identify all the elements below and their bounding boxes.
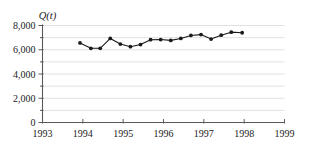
- y-tick-label: 6,000: [13, 44, 36, 55]
- x-tick-label: 1996: [154, 128, 174, 139]
- y-tick-label: 4,000: [13, 69, 36, 80]
- data-series-group: [78, 30, 244, 50]
- data-point-marker: [199, 33, 203, 37]
- y-axis-title: Q(t): [39, 10, 57, 22]
- data-point-marker: [179, 37, 183, 41]
- data-point-marker: [78, 41, 82, 45]
- chart-page: 02,0004,0006,0008,000 199319941995199619…: [0, 0, 319, 150]
- y-axis-labels-group: 02,0004,0006,0008,000: [13, 20, 36, 128]
- data-point-marker: [89, 46, 93, 50]
- data-point-marker: [229, 30, 233, 34]
- data-point-marker: [169, 39, 173, 43]
- data-point-marker: [149, 38, 153, 42]
- x-tick-label: 1999: [275, 128, 295, 139]
- x-tick-label: 1995: [113, 128, 133, 139]
- data-point-marker: [240, 31, 244, 35]
- data-point-marker: [219, 33, 223, 37]
- x-axis-labels-group: 1993199419951996199719981999: [33, 128, 295, 139]
- gridlines-group: [43, 26, 285, 111]
- x-tick-label: 1997: [194, 128, 214, 139]
- data-point-marker: [139, 43, 143, 47]
- data-point-marker: [129, 45, 133, 49]
- x-tick-label: 1994: [73, 128, 93, 139]
- data-point-marker: [209, 37, 213, 41]
- y-tick-label: 2,000: [13, 93, 36, 104]
- x-tick-label: 1993: [33, 128, 53, 139]
- data-point-marker: [118, 42, 122, 46]
- data-point-marker: [98, 46, 102, 50]
- y-tick-label: 8,000: [13, 20, 36, 31]
- x-tick-label: 1998: [234, 128, 254, 139]
- data-point-marker: [189, 34, 193, 38]
- data-point-marker: [108, 37, 112, 41]
- line-chart: 02,0004,0006,0008,000 199319941995199619…: [0, 0, 319, 150]
- data-point-marker: [159, 38, 163, 42]
- y-tick-label: 0: [31, 117, 36, 128]
